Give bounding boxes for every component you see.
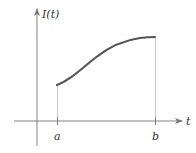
x-axis-label: t: [186, 115, 191, 128]
y-axis-label: I(t): [41, 8, 59, 21]
curve-I-of-t: [57, 37, 155, 85]
tick-b-label: b: [152, 130, 159, 143]
tick-a-label: a: [54, 130, 61, 143]
integral-diagram: I(t) t a b: [0, 0, 196, 153]
